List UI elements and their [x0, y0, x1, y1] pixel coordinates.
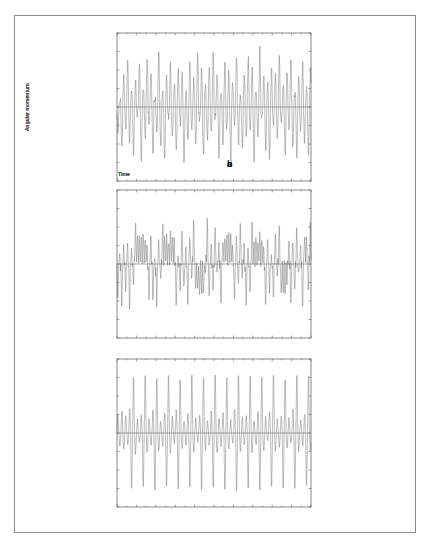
figure: Angular momentum Time a Angular momentum…	[15, 16, 417, 534]
line-chart-b	[111, 186, 315, 352]
chart-panel-c	[111, 355, 315, 521]
x-axis-label-c: Time	[29, 171, 219, 177]
plot-area-c	[111, 355, 315, 521]
figure-outer-border: Angular momentum Time a Angular momentum…	[14, 15, 416, 533]
chart-panel-b	[111, 186, 315, 352]
page-canvas: Angular momentum Time a Angular momentum…	[0, 0, 431, 549]
plot-area-b	[111, 186, 315, 352]
y-axis-label-c: Angular momentum	[24, 83, 30, 131]
panel-tag-c: c	[227, 160, 232, 169]
line-chart-c	[111, 355, 315, 521]
